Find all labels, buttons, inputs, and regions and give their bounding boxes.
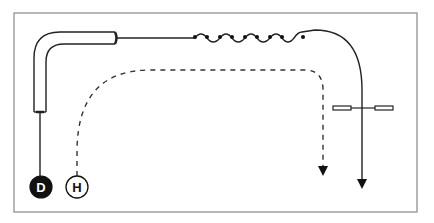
solid-arrowhead-icon: [357, 179, 367, 189]
dashed-arrowhead-icon: [318, 166, 328, 176]
crossbar: [333, 106, 393, 110]
node-d-label: D: [36, 180, 45, 195]
crossbar-right-rect: [375, 106, 393, 110]
coil: [193, 32, 305, 42]
bent-pipe: [34, 32, 117, 112]
node-h: H: [66, 176, 88, 198]
dashed-path: [77, 70, 323, 176]
diagram-canvas: D H: [0, 0, 434, 223]
crossbar-left-rect: [333, 106, 351, 110]
solid-path-right: [302, 30, 362, 180]
node-d: D: [30, 176, 52, 198]
node-h-label: H: [72, 180, 81, 195]
